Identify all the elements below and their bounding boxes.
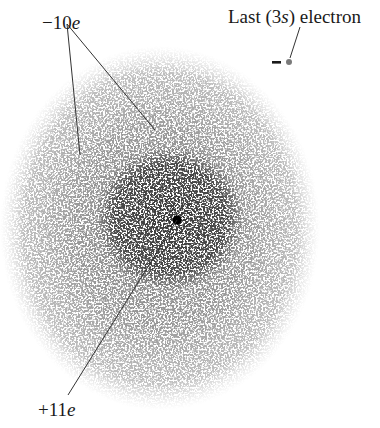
inner-electron-core <box>95 146 245 290</box>
core-electron-charge-label: −10e <box>42 13 80 32</box>
valence-electron-dot <box>286 59 292 65</box>
nucleus-charge-label: +11e <box>38 400 75 419</box>
electron-cloud-graphic <box>0 0 380 428</box>
valence-leader-line <box>290 27 300 58</box>
valence-electron-label: Last (3s) electron <box>228 7 361 26</box>
sodium-atom-diagram: −10e +11e Last (3s) electron <box>0 0 380 428</box>
valence-charge-minus-icon <box>272 61 281 64</box>
